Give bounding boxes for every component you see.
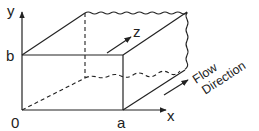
wavy-back-right-edge	[185, 12, 188, 69]
y-extent-label-b: b	[6, 47, 14, 64]
hidden-back-bottom-edge	[85, 71, 180, 78]
flow-direction-label: Flow Direction	[190, 47, 248, 98]
origin-label: 0	[11, 114, 19, 131]
diagram-canvas: y b 0 a x z Flow Direction	[0, 0, 259, 131]
top-left-depth-edge	[22, 13, 85, 55]
hidden-bottom-left-depth	[22, 78, 85, 110]
x-extent-label-a: a	[117, 114, 126, 131]
flow-direction-arrow	[164, 80, 188, 95]
z-axis-arrow	[107, 37, 131, 53]
z-axis-label: z	[133, 23, 141, 40]
x-axis-label: x	[167, 107, 175, 124]
channel-diagram: y b 0 a x z Flow Direction	[0, 0, 259, 131]
wavy-top-back-edge	[85, 12, 187, 14]
y-axis-label: y	[7, 2, 15, 19]
